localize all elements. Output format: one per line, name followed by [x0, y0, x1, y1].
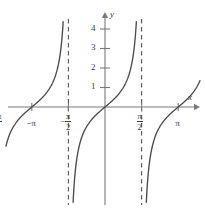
y-axis-arrowhead	[102, 12, 108, 18]
fraction: π2	[137, 112, 143, 131]
y-tick-label-text: 4	[91, 23, 96, 33]
y-tick-label-text: 3	[91, 42, 96, 52]
x-tick-label-1: −π	[26, 113, 36, 129]
y-tick-label-text: 1	[91, 81, 96, 91]
y-tick-label-text: 2	[91, 62, 96, 72]
asymptote-group	[0, 19, 205, 205]
tick-label-text: −π	[26, 118, 36, 128]
tick-mark-group	[0, 29, 205, 111]
x-axis-name-text: x	[188, 92, 192, 102]
x-tick-label-0: −3π2	[0, 112, 2, 131]
x-axis-name: x	[188, 93, 192, 102]
fraction-numerator: π	[65, 112, 71, 121]
x-tick-label-2: −π2	[60, 112, 71, 131]
y-axis-name-text: y	[110, 9, 114, 19]
fraction-numerator: 3π	[0, 112, 2, 121]
fraction: π2	[65, 112, 71, 131]
y-tick-label-1: 1	[91, 82, 96, 91]
fraction-denominator: 2	[0, 123, 2, 132]
x-tick-label-3: π2	[137, 112, 143, 131]
plot-canvas	[0, 0, 205, 213]
x-axis-arrowhead	[194, 104, 200, 110]
y-tick-label-3: 3	[91, 43, 96, 52]
x-tick-label-4: π	[175, 113, 180, 129]
tangent-function-figure: 1234−3π2−π−π2π2π3π2xy	[0, 0, 205, 213]
fraction-denominator: 2	[65, 123, 71, 132]
fraction-denominator: 2	[137, 123, 143, 132]
y-axis-name: y	[110, 10, 114, 19]
tick-label-text: π	[175, 118, 180, 128]
fraction: 3π2	[0, 112, 2, 131]
y-tick-label-4: 4	[91, 24, 96, 33]
y-tick-label-2: 2	[91, 63, 96, 72]
fraction-numerator: π	[137, 112, 143, 121]
